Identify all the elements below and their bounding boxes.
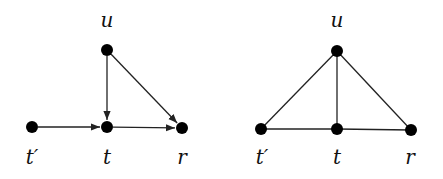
undirected-graph: ut′tr <box>255 8 417 169</box>
graph-diagram: ut′tr ut′tr <box>0 0 443 179</box>
node-r <box>176 122 188 134</box>
node-label-t: t <box>103 145 112 169</box>
edge-t-r <box>337 129 411 130</box>
node-label-r: r <box>405 145 416 169</box>
edge-t-r <box>113 127 175 128</box>
edge-u-r <box>337 51 411 130</box>
node-tp <box>26 121 38 133</box>
node-t <box>101 121 113 133</box>
node-label-t: t <box>333 145 342 169</box>
node-label-tp: t′ <box>26 145 39 169</box>
node-label-u: u <box>331 8 344 32</box>
directed-graph: ut′tr <box>26 8 189 169</box>
node-u <box>331 45 343 57</box>
node-tp <box>255 123 267 135</box>
edge-u-r <box>111 54 177 123</box>
node-u <box>101 44 113 56</box>
node-label-u: u <box>101 8 114 32</box>
node-label-r: r <box>177 145 188 169</box>
node-t <box>331 123 343 135</box>
node-label-tp: t′ <box>256 145 269 169</box>
edge-u-tp <box>261 51 337 129</box>
node-r <box>405 124 417 136</box>
